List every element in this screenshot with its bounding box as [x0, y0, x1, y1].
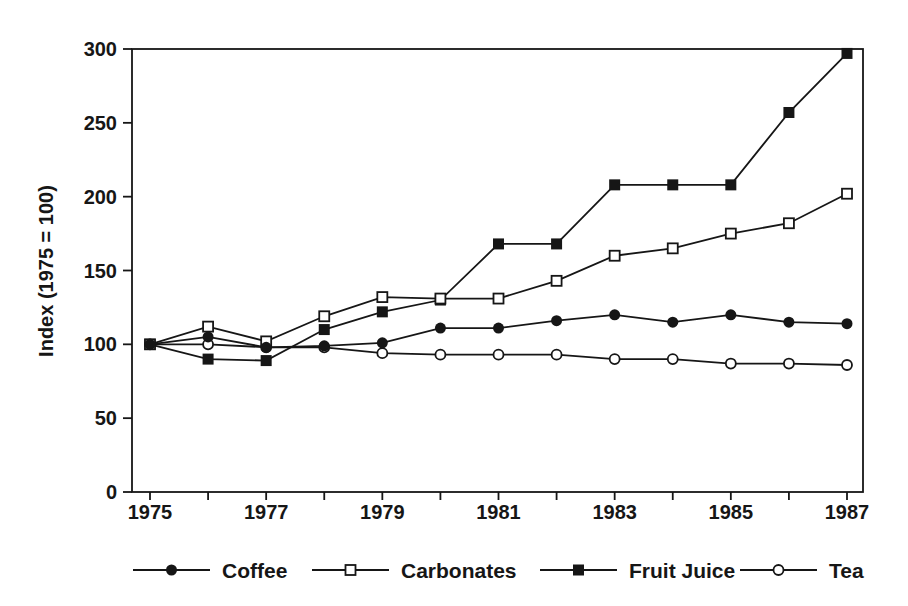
- carbonates-marker: [319, 311, 329, 321]
- fruit-juice-marker: [203, 354, 214, 365]
- tea-marker: [494, 350, 504, 360]
- coffee-marker: [842, 318, 853, 329]
- tea-marker: [610, 354, 620, 364]
- series-fruit-juice: [145, 48, 853, 366]
- legend-open-circle-marker: [774, 565, 784, 575]
- beverage-index-line-chart: 0501001502002503001975197719791981198319…: [0, 0, 908, 606]
- y-tick-label: 50: [95, 407, 117, 429]
- y-axis: 050100150200250300: [84, 38, 132, 503]
- coffee-marker: [203, 331, 214, 342]
- x-tick-label: 1981: [476, 501, 521, 523]
- legend: CoffeeCarbonatesFruit JuiceTea: [133, 559, 864, 582]
- legend-item-carbonates: Carbonates: [312, 559, 517, 582]
- coffee-marker: [609, 309, 620, 320]
- fruit-juice-marker: [842, 48, 853, 59]
- legend-label-fruit-juice: Fruit Juice: [629, 559, 735, 582]
- fruit-juice-marker: [783, 107, 794, 118]
- y-tick-label: 0: [106, 481, 117, 503]
- carbonates-marker: [494, 294, 504, 304]
- tea-marker: [784, 359, 794, 369]
- coffee-marker: [551, 315, 562, 326]
- carbonates-marker: [377, 292, 387, 302]
- tea-marker: [377, 348, 387, 358]
- carbonates-marker: [552, 276, 562, 286]
- tea-marker: [552, 350, 562, 360]
- fruit-juice-marker: [667, 179, 678, 190]
- carbonates-marker: [784, 218, 794, 228]
- coffee-marker: [319, 340, 330, 351]
- coffee-marker: [493, 323, 504, 334]
- tea-marker: [842, 360, 852, 370]
- fruit-juice-marker: [493, 238, 504, 249]
- legend-item-tea: Tea: [740, 559, 864, 582]
- tea-marker: [668, 354, 678, 364]
- coffee-marker: [145, 339, 156, 350]
- coffee-marker: [667, 317, 678, 328]
- legend-label-carbonates: Carbonates: [401, 559, 517, 582]
- coffee-marker: [377, 337, 388, 348]
- x-tick-label: 1977: [244, 501, 289, 523]
- x-tick-label: 1975: [128, 501, 173, 523]
- fruit-juice-marker: [261, 355, 272, 366]
- chart-page: Index (1975 = 100) 050100150200250300197…: [0, 0, 908, 606]
- fruit-juice-marker: [377, 306, 388, 317]
- y-tick-label: 100: [84, 333, 117, 355]
- legend-item-fruit-juice: Fruit Juice: [540, 559, 735, 582]
- y-tick-label: 200: [84, 186, 117, 208]
- coffee-marker: [725, 309, 736, 320]
- x-tick-label: 1985: [709, 501, 754, 523]
- x-axis: 1975197719791981198319851987: [128, 492, 870, 523]
- legend-filled-circle-marker: [166, 565, 177, 576]
- legend-label-coffee: Coffee: [222, 559, 287, 582]
- fruit-juice-line: [150, 53, 847, 360]
- carbonates-marker: [435, 294, 445, 304]
- legend-label-tea: Tea: [829, 559, 864, 582]
- x-tick-label: 1983: [592, 501, 637, 523]
- legend-open-square-marker: [346, 565, 356, 575]
- y-axis-title: Index (1975 = 100): [35, 185, 58, 357]
- y-tick-label: 150: [84, 260, 117, 282]
- carbonates-marker: [610, 251, 620, 261]
- carbonates-marker: [842, 189, 852, 199]
- x-tick-label: 1987: [825, 501, 870, 523]
- fruit-juice-marker: [319, 324, 330, 335]
- y-tick-label: 300: [84, 38, 117, 60]
- x-tick-label: 1979: [360, 501, 405, 523]
- carbonates-marker: [203, 322, 213, 332]
- fruit-juice-marker: [609, 179, 620, 190]
- tea-marker: [435, 350, 445, 360]
- legend-item-coffee: Coffee: [133, 559, 287, 582]
- coffee-marker: [435, 323, 446, 334]
- legend-filled-square-marker: [573, 565, 584, 576]
- coffee-marker: [783, 317, 794, 328]
- fruit-juice-marker: [551, 238, 562, 249]
- tea-marker: [726, 359, 736, 369]
- carbonates-marker: [726, 229, 736, 239]
- carbonates-marker: [668, 243, 678, 253]
- fruit-juice-marker: [725, 179, 736, 190]
- y-tick-label: 250: [84, 112, 117, 134]
- coffee-marker: [261, 342, 272, 353]
- carbonates-line: [150, 194, 847, 345]
- plot-border: [132, 49, 863, 492]
